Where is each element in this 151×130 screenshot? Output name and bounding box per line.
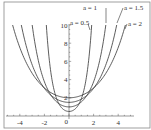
curve-label: a = 1.5 bbox=[124, 4, 144, 12]
y-tick-label: 10 bbox=[61, 22, 69, 30]
curve-label: a = 2 bbox=[128, 20, 143, 28]
y-tick-label: 6 bbox=[64, 58, 68, 66]
curve-labels: a = 0.5a = 1a = 1.5a = 2 bbox=[70, 4, 144, 30]
y-tick-label: 4 bbox=[64, 76, 68, 84]
origin-label: 0 bbox=[65, 118, 69, 126]
x-tick-label: -2 bbox=[41, 119, 47, 127]
x-tick-label: 4 bbox=[116, 119, 120, 127]
y-tick-label: 8 bbox=[64, 40, 68, 48]
curve-label: a = 1 bbox=[83, 4, 98, 12]
x-tick-label: 2 bbox=[92, 119, 96, 127]
chart: -4-2240246810 a = 0.5a = 1a = 1.5a = 2 bbox=[0, 0, 151, 130]
label-arrow bbox=[117, 8, 123, 23]
y-tick-label: 2 bbox=[64, 94, 68, 102]
x-tick-label: -4 bbox=[17, 119, 23, 127]
curve-label: a = 0.5 bbox=[70, 19, 90, 27]
